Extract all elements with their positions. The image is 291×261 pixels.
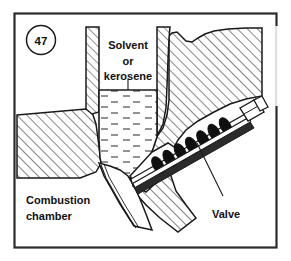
figure-47-container: 47 [0,0,291,261]
break-line-right [244,26,278,106]
label-combustion-line1: Combustion [26,194,90,206]
label-solvent-line2: or [123,55,135,67]
figure-number-badge: 47 [27,26,56,55]
figure-number-text: 47 [35,35,48,47]
cross-section-diagram: 47 [0,0,291,261]
label-valve: Valve [212,208,240,220]
label-solvent-line1: Solvent [108,39,148,51]
body-block-left [17,109,101,178]
label-solvent-line3: kerosene [104,70,152,82]
tank-wall-left [86,27,99,114]
label-combustion-line2: chamber [26,210,73,222]
